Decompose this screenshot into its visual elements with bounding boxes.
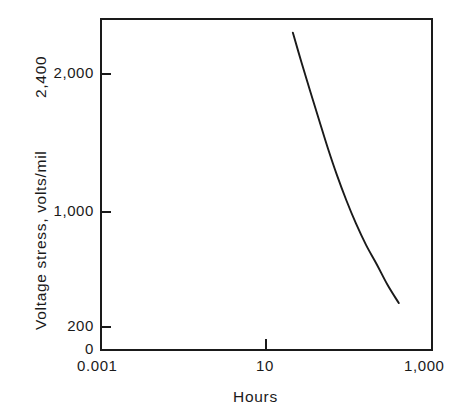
x-tick-label-10: 10 [256, 357, 274, 374]
y-tick-label-200: 200 [36, 317, 94, 334]
axis-frame [101, 19, 432, 350]
x-tick-label-0-001: 0.001 [77, 357, 118, 374]
y-axis-title: Voltage stress, volts/mil [32, 151, 50, 330]
y-tick-label-1000: 1,000 [36, 202, 94, 219]
data-curve [293, 33, 399, 303]
chart-figure: Voltage stress, volts/mil 2,400 2,000 1,… [0, 0, 466, 420]
x-tick-label-1000: 1,000 [404, 357, 445, 374]
y-tick-label-2000: 2,000 [36, 64, 94, 81]
y-tick-label-0: 0 [36, 340, 94, 357]
x-axis-title: Hours [233, 388, 278, 406]
y-axis-ticks [101, 74, 111, 327]
